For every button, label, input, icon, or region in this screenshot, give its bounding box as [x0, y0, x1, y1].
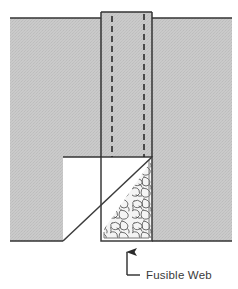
right-fabric-body — [152, 18, 232, 241]
annotation-leader — [127, 252, 140, 275]
figure-root: Fusible Web — [0, 0, 238, 289]
fusible-web-label: Fusible Web — [146, 269, 212, 281]
fusible-web-diagram: Fusible Web — [0, 0, 238, 289]
